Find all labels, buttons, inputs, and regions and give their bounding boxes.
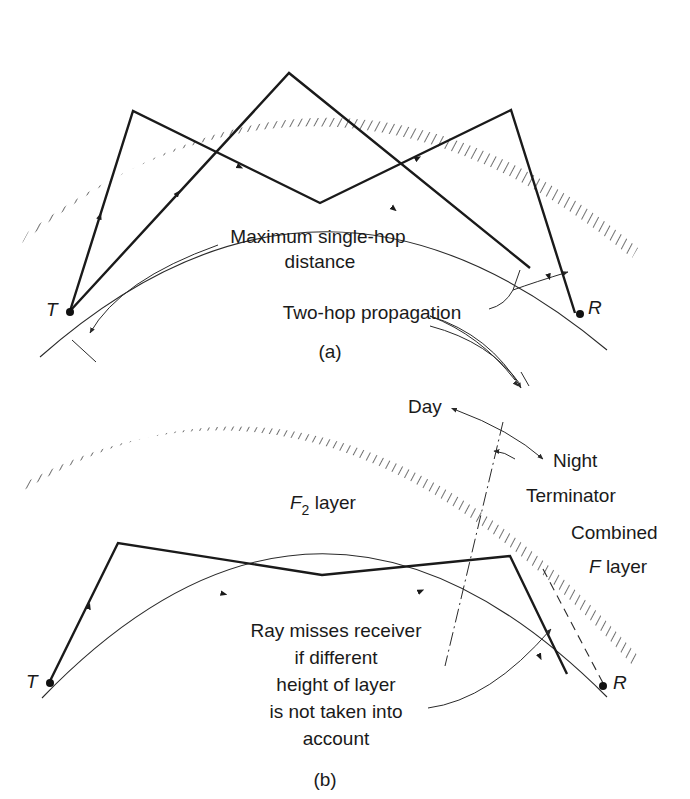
panel-a: T R Maximum single-hop distance Two-hop … (22, 73, 638, 388)
panel-b: T R F2 layer Day Night Terminator Combin… (24, 396, 658, 790)
propagation-diagram: T R Maximum single-hop distance Two-hop … (0, 0, 690, 799)
note-line-4: is not taken into (269, 701, 402, 722)
receiver-point-b (599, 682, 607, 690)
tick-right-a (521, 372, 529, 386)
note-text: Ray misses receiver if different height … (250, 620, 422, 749)
terminator-label: Terminator (526, 485, 616, 506)
night-label: Night (553, 450, 598, 471)
transmitter-label-a: T (46, 299, 59, 320)
terminator-pointer (494, 451, 515, 459)
day-label: Day (408, 396, 442, 417)
caption-b: (b) (313, 769, 336, 790)
max-hop-label-1: Maximum single-hop (230, 226, 405, 247)
note-pointer (428, 629, 551, 708)
transmitter-label-b: T (26, 671, 39, 692)
f2-layer-label: F2 layer (290, 492, 357, 518)
receiver-label-a: R (588, 297, 602, 318)
combined-label-1: Combined (571, 522, 658, 543)
note-line-3: height of layer (276, 674, 396, 695)
note-line-2: if different (294, 647, 378, 668)
two-hop-label: Two-hop propagation (283, 302, 462, 323)
note-line-1: Ray misses receiver (250, 620, 422, 641)
two-hop-ray (70, 110, 575, 313)
receiver-label-b: R (613, 672, 627, 693)
terminator-line (445, 422, 503, 666)
combined-label-2: F layer (589, 556, 648, 577)
max-hop-distance-arc (90, 245, 218, 333)
caption-a: (a) (318, 341, 341, 362)
corrected-ray-dashed (543, 569, 603, 683)
transmitter-point-b (46, 679, 54, 687)
receiver-point-a (576, 310, 584, 318)
max-hop-label-2: distance (285, 251, 356, 272)
note-line-5: account (303, 728, 370, 749)
transmitter-point-a (66, 308, 74, 316)
tick-left-a (72, 340, 96, 362)
max-hop-arc-right-lead (430, 326, 520, 384)
